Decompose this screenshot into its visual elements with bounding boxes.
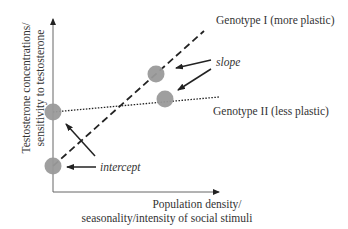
x-axis-label: Population density/ seasonality/intensit… — [54, 197, 280, 225]
genotype-2-slope-point — [157, 91, 174, 108]
intercept-annotation: intercept — [100, 160, 140, 174]
genotype-2-intercept-point — [45, 104, 62, 121]
genotype-1-reaction-norm-line — [53, 31, 204, 166]
genotype-1-label: Genotype I (more plastic) — [216, 13, 334, 27]
genotype-1-intercept-point — [45, 158, 62, 175]
genotype-1-slope-point — [148, 66, 165, 83]
x-axis-label-line2: seasonality/intensity of social stimuli — [54, 211, 280, 225]
slope-arrow-upper — [176, 60, 211, 68]
x-axis-label-line1: Population density/ — [54, 197, 280, 211]
y-axis-label: Testosterone concentrations/ sensitivity… — [19, 0, 47, 178]
genotype-2-label: Genotype II (less plastic) — [213, 104, 329, 118]
data-points — [45, 66, 174, 175]
slope-annotation: slope — [216, 55, 240, 69]
annotation-arrows — [66, 60, 211, 167]
slope-arrow-lower — [178, 69, 211, 90]
y-axis-label-line2: sensitivity to testosterone — [33, 0, 47, 178]
y-axis-label-line1: Testosterone concentrations/ — [19, 0, 33, 178]
genotype-2-reaction-norm-line — [53, 97, 219, 112]
